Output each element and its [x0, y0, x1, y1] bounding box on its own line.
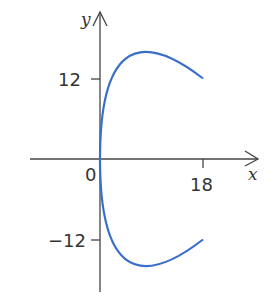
origin-label: 0: [85, 164, 96, 185]
x-axis-label: x: [248, 164, 258, 184]
y-tick-label-neg12: −12: [48, 230, 86, 251]
parabola-chart: 12 −12 0 18 x y: [0, 0, 277, 306]
y-tick-label-12: 12: [58, 69, 81, 90]
x-tick-label-18: 18: [190, 174, 213, 195]
y-axis-label: y: [80, 9, 91, 29]
